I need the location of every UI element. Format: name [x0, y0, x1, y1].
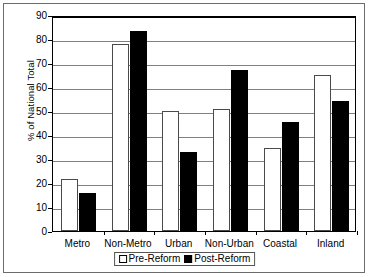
x-axis-label-coastal: Coastal — [255, 238, 306, 249]
y-tick-mark — [48, 232, 52, 233]
chart-legend: Pre-Reform Post-Reform — [114, 252, 256, 266]
gridline — [53, 209, 355, 210]
bar-non-metro-post-reform — [130, 31, 147, 231]
legend-label-post-reform: Post-Reform — [194, 254, 250, 264]
gridline — [53, 89, 355, 90]
y-axis-title: % of National Total — [25, 26, 36, 176]
black-square-icon — [184, 255, 192, 263]
x-axis-tick — [357, 231, 358, 235]
plot-area — [52, 16, 356, 232]
gridline — [53, 113, 355, 114]
gridline — [53, 65, 355, 66]
y-tick-mark — [48, 160, 52, 161]
white-square-icon — [119, 255, 127, 263]
x-axis-label-non-metro: Non-Metro — [103, 238, 154, 249]
y-tick-label: 70 — [3, 59, 47, 69]
y-tick-mark — [48, 184, 52, 185]
x-axis-tick — [256, 231, 257, 235]
y-tick-mark — [48, 40, 52, 41]
y-tick-label: 80 — [3, 35, 47, 45]
bar-non-urban-post-reform — [231, 70, 248, 231]
x-axis-label-urban: Urban — [153, 238, 204, 249]
y-tick-label: 40 — [3, 131, 47, 141]
y-tick-label: 20 — [3, 179, 47, 189]
gridline — [53, 185, 355, 186]
bar-chart: % of National Total 0102030405060708090 … — [0, 0, 369, 277]
y-tick-mark — [48, 112, 52, 113]
y-tick-mark — [48, 64, 52, 65]
y-tick-label: 0 — [3, 227, 47, 237]
gridline — [53, 17, 355, 18]
bar-inland-pre-reform — [314, 75, 331, 231]
x-axis-label-inland: Inland — [305, 238, 356, 249]
y-tick-mark — [48, 88, 52, 89]
y-tick-mark — [48, 16, 52, 17]
gridline — [53, 161, 355, 162]
x-axis-tick — [154, 231, 155, 235]
bar-non-metro-pre-reform — [112, 44, 129, 231]
bar-coastal-post-reform — [282, 122, 299, 231]
bar-metro-post-reform — [79, 193, 96, 231]
gridline — [53, 137, 355, 138]
y-tick-label: 50 — [3, 107, 47, 117]
bar-urban-pre-reform — [162, 111, 179, 231]
bar-metro-pre-reform — [61, 179, 78, 231]
legend-item-post-reform: Post-Reform — [184, 254, 250, 264]
y-tick-label: 90 — [3, 11, 47, 21]
gridline — [53, 41, 355, 42]
bar-inland-post-reform — [332, 101, 349, 231]
x-axis-label-non-urban: Non-Urban — [204, 238, 255, 249]
y-tick-mark — [48, 208, 52, 209]
x-axis-tick — [205, 231, 206, 235]
x-axis-tick — [306, 231, 307, 235]
plot-inner — [53, 17, 355, 231]
x-axis-tick — [104, 231, 105, 235]
x-axis-label-metro: Metro — [52, 238, 103, 249]
legend-item-pre-reform: Pre-Reform — [119, 254, 181, 264]
legend-label-pre-reform: Pre-Reform — [129, 254, 181, 264]
y-tick-label: 60 — [3, 83, 47, 93]
y-tick-label: 30 — [3, 155, 47, 165]
y-tick-mark — [48, 136, 52, 137]
bar-non-urban-pre-reform — [213, 109, 230, 231]
bar-urban-post-reform — [180, 152, 197, 231]
bar-coastal-pre-reform — [264, 148, 281, 231]
y-tick-label: 10 — [3, 203, 47, 213]
